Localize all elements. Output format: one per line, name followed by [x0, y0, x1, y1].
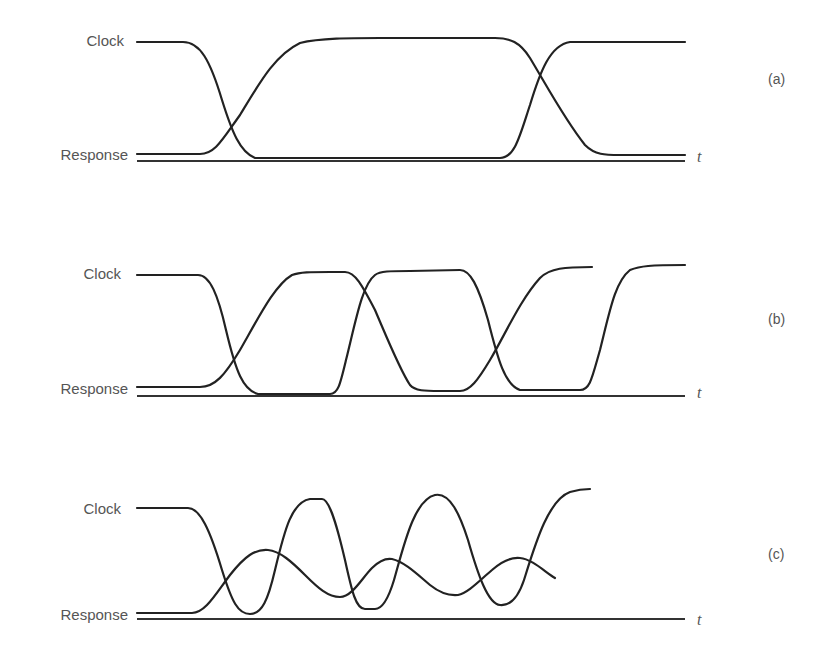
time-axis-label-c: t: [697, 611, 701, 629]
clock-label-c: Clock: [40, 500, 121, 517]
panel-id-a: (a): [768, 71, 785, 87]
panel-c: [137, 489, 685, 619]
clock-waveform-c: [137, 489, 590, 614]
clock-waveform-b: [137, 265, 685, 394]
time-axis-label-b: t: [697, 384, 701, 402]
clock-waveform-a: [137, 42, 685, 158]
panel-a: [137, 38, 685, 161]
timing-diagram: [0, 0, 822, 648]
response-waveform-a: [137, 38, 685, 155]
clock-label-b: Clock: [40, 265, 121, 282]
clock-label-a: Clock: [40, 32, 124, 49]
panel-id-c: (c): [768, 546, 784, 562]
panel-id-b: (b): [768, 311, 785, 327]
panel-b: [137, 265, 685, 396]
response-label-a: Response: [20, 146, 128, 163]
response-label-c: Response: [20, 606, 128, 623]
response-label-b: Response: [20, 380, 128, 397]
time-axis-label-a: t: [697, 148, 701, 166]
response-waveform-c: [137, 550, 555, 613]
response-waveform-b: [137, 267, 592, 391]
